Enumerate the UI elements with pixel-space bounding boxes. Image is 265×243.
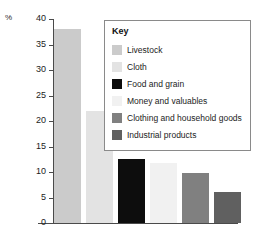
legend-item-label: Cloth (127, 62, 147, 72)
y-axis-tick: 0 (0, 223, 54, 224)
legend-swatch-icon (112, 62, 122, 72)
legend-item: Cloth (112, 58, 250, 75)
y-axis-unit-label: % (5, 13, 12, 22)
y-axis-tick: 15 (0, 147, 54, 148)
y-axis-tick: 40 (0, 19, 54, 20)
bar-chart: % 0510152025303540 Key LivestockClothFoo… (0, 0, 265, 243)
y-axis-tick-label: 0 (41, 217, 46, 227)
legend-items: LivestockClothFood and grainMoney and va… (112, 41, 250, 143)
legend-item-label: Food and grain (127, 79, 184, 89)
x-axis-line (38, 223, 238, 224)
y-axis-tick: 5 (0, 198, 54, 199)
legend-swatch-icon (112, 130, 122, 140)
bar-money-and-valuables (150, 163, 177, 223)
cropped-title-remnant (0, 0, 265, 6)
y-axis-tick-mark (49, 223, 54, 224)
y-axis-tick-label: 15 (36, 141, 46, 151)
bar-clothing-and-household-goods (182, 173, 209, 223)
legend-item: Money and valuables (112, 92, 250, 109)
bar-food-and-grain (118, 159, 145, 223)
legend-title: Key (112, 26, 250, 36)
y-axis-tick-label: 20 (36, 115, 46, 125)
legend-box: Key LivestockClothFood and grainMoney an… (104, 20, 251, 151)
bar-livestock (54, 29, 81, 223)
legend-swatch-icon (112, 79, 122, 89)
y-axis-tick-label: 30 (36, 64, 46, 74)
y-axis-tick-label: 25 (36, 90, 46, 100)
legend-item-label: Industrial products (127, 130, 196, 140)
legend-item-label: Clothing and household goods (127, 113, 242, 123)
y-axis-tick-label: 35 (36, 39, 46, 49)
legend-swatch-icon (112, 45, 122, 55)
y-axis-tick: 30 (0, 70, 54, 71)
legend-item-label: Money and valuables (127, 96, 207, 106)
legend-swatch-icon (112, 96, 122, 106)
y-axis-tick-label: 5 (41, 192, 46, 202)
legend-item: Food and grain (112, 75, 250, 92)
legend-item: Clothing and household goods (112, 109, 250, 126)
y-axis-tick: 35 (0, 45, 54, 46)
legend-swatch-icon (112, 113, 122, 123)
y-axis-tick-label: 10 (36, 166, 46, 176)
legend-item: Livestock (112, 41, 250, 58)
y-axis-tick: 20 (0, 121, 54, 122)
legend-item: Industrial products (112, 126, 250, 143)
y-axis-tick: 25 (0, 96, 54, 97)
legend-item-label: Livestock (127, 45, 162, 55)
bar-industrial-products (214, 192, 241, 223)
y-axis-tick-label: 40 (36, 13, 46, 23)
y-axis-tick: 10 (0, 172, 54, 173)
